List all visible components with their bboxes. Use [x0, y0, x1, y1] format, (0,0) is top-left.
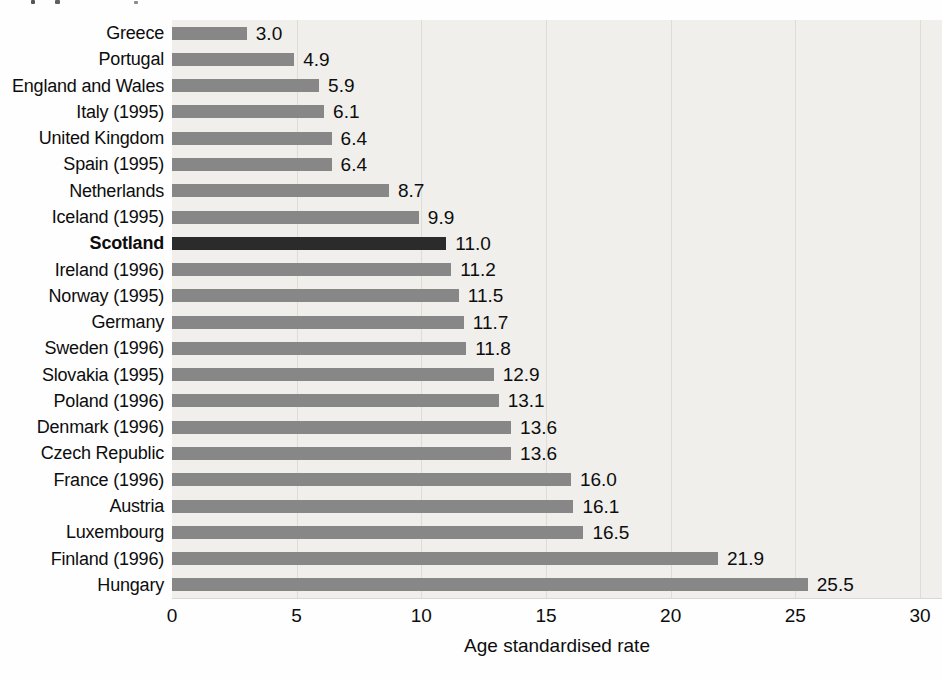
value-label: 4.9 [303, 50, 329, 69]
bar-row: Italy (1995)6.1 [0, 99, 942, 125]
category-label: Finland (1996) [0, 550, 172, 568]
value-label: 8.7 [398, 181, 424, 200]
bar [172, 500, 573, 513]
value-label: 6.4 [341, 155, 367, 174]
value-label: 11.8 [475, 339, 511, 358]
value-label: 12.9 [503, 365, 540, 384]
bar-row: Netherlands8.7 [0, 178, 942, 204]
bar [172, 132, 332, 145]
value-label: 5.9 [328, 76, 354, 95]
bar-row: England and Wales5.9 [0, 73, 942, 99]
category-label: Slovakia (1995) [0, 366, 172, 384]
bar [172, 447, 511, 460]
bar-row: Austria16.1 [0, 493, 942, 519]
bar [172, 578, 808, 591]
value-label: 6.4 [341, 129, 367, 148]
chart-figure: Greece3.0Portugal4.9England and Wales5.9… [0, 0, 942, 681]
value-label: 9.9 [428, 208, 454, 227]
category-label: Poland (1996) [0, 392, 172, 410]
x-tick-label: 30 [909, 606, 930, 625]
category-label: Denmark (1996) [0, 418, 172, 436]
bar-row: France (1996)16.0 [0, 467, 942, 493]
value-label: 13.6 [520, 418, 557, 437]
bar [172, 394, 499, 407]
category-label: Greece [0, 24, 172, 42]
bar [172, 263, 451, 276]
bar [172, 27, 247, 40]
bar [172, 526, 583, 539]
value-label: 16.5 [592, 523, 629, 542]
category-label: Luxembourg [0, 523, 172, 541]
value-label: 11.2 [460, 260, 496, 279]
bar-row: Spain (1995)6.4 [0, 151, 942, 177]
category-label: Austria [0, 497, 172, 515]
value-label: 25.5 [817, 575, 854, 594]
bar [172, 316, 464, 329]
bar-row: Hungary25.5 [0, 572, 942, 598]
bar-highlight [172, 237, 446, 250]
bar-row: Germany11.7 [0, 309, 942, 335]
value-label: 6.1 [333, 102, 359, 121]
x-tick-label: 15 [535, 606, 556, 625]
bar [172, 473, 571, 486]
category-label: Iceland (1995) [0, 208, 172, 226]
category-label: Czech Republic [0, 444, 172, 462]
category-label: United Kingdom [0, 129, 172, 147]
clipped-text-remnant [31, 0, 35, 4]
value-label: 3.0 [256, 24, 282, 43]
clipped-text-remnant [134, 1, 138, 4]
value-label: 13.6 [520, 444, 557, 463]
category-label: Hungary [0, 576, 172, 594]
bar [172, 105, 324, 118]
category-label: Sweden (1996) [0, 339, 172, 357]
category-label: Germany [0, 313, 172, 331]
category-label: Portugal [0, 50, 172, 68]
bar [172, 368, 494, 381]
bar-row: Iceland (1995)9.9 [0, 204, 942, 230]
category-label: Spain (1995) [0, 155, 172, 173]
x-axis-ticks: 051015202530 [0, 606, 942, 630]
bar [172, 79, 319, 92]
bar-row: Ireland (1996)11.2 [0, 256, 942, 282]
bar-row: Norway (1995)11.5 [0, 283, 942, 309]
category-label: Scotland [0, 234, 172, 252]
category-label: England and Wales [0, 77, 172, 95]
x-tick-label: 25 [785, 606, 806, 625]
x-axis-title: Age standardised rate [172, 636, 942, 655]
bar-row: Greece3.0 [0, 20, 942, 46]
bar [172, 211, 419, 224]
bar-row: Scotland11.0 [0, 230, 942, 256]
bar-row: Sweden (1996)11.8 [0, 335, 942, 361]
bar [172, 289, 459, 302]
bar-row: Finland (1996)21.9 [0, 545, 942, 571]
x-tick-label: 20 [660, 606, 681, 625]
x-tick-label: 5 [291, 606, 302, 625]
bar-row: Czech Republic13.6 [0, 440, 942, 466]
bar-row: Poland (1996)13.1 [0, 388, 942, 414]
bar [172, 342, 466, 355]
clipped-text-remnant [55, 0, 60, 4]
value-label: 11.7 [473, 313, 509, 332]
bar-row: Slovakia (1995)12.9 [0, 362, 942, 388]
category-label: Norway (1995) [0, 287, 172, 305]
bar-row: Luxembourg16.5 [0, 519, 942, 545]
x-tick-label: 0 [167, 606, 178, 625]
value-label: 11.0 [455, 234, 491, 253]
category-label: Italy (1995) [0, 103, 172, 121]
bar-row: Denmark (1996)13.6 [0, 414, 942, 440]
bar [172, 184, 389, 197]
category-label: Netherlands [0, 182, 172, 200]
bar [172, 552, 718, 565]
bar [172, 53, 294, 66]
value-label: 16.1 [582, 497, 619, 516]
value-label: 11.5 [468, 286, 504, 305]
bar-row: Portugal4.9 [0, 46, 942, 72]
category-label: Ireland (1996) [0, 261, 172, 279]
value-label: 13.1 [508, 391, 545, 410]
bar-row: United Kingdom6.4 [0, 125, 942, 151]
value-label: 21.9 [727, 549, 764, 568]
x-tick-label: 10 [411, 606, 432, 625]
bar [172, 421, 511, 434]
category-label: France (1996) [0, 471, 172, 489]
value-label: 16.0 [580, 470, 617, 489]
